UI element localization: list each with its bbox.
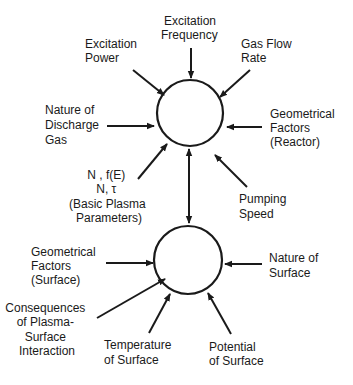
label-basic-plasma-parameters: N , f(E) N, τ (Basic Plasma Parameters) (69, 168, 149, 225)
label-pumping-speed: Pumping Speed (239, 192, 290, 221)
arrow-basic-plasma-parameters (138, 144, 167, 179)
label-temperature-of-surface: Temperature of Surface (104, 338, 175, 367)
label-geometrical-factors-surface: Geometrical Factors (Surface) (31, 245, 99, 287)
label-nature-of-surface: Nature of Surface (269, 251, 322, 280)
arrow-potential-of-surface (208, 293, 231, 334)
label-consequences: Consequences of Plasma- Surface Interact… (5, 301, 88, 358)
label-excitation-frequency: Excitation Frequency (161, 14, 219, 42)
surface-node-circle (154, 226, 222, 294)
label-excitation-power: Excitation Power (85, 37, 140, 65)
label-gas-flow-rate: Gas Flow Rate (241, 37, 295, 65)
arrow-gas-flow-rate (220, 70, 250, 97)
arrow-temperature-of-surface (149, 294, 170, 333)
label-nature-of-discharge-gas: Nature of Discharge Gas (45, 103, 102, 147)
label-potential-of-surface: Potential of Surface (209, 340, 264, 368)
plasma-surface-diagram: Excitation Power Excitation Frequency Ga… (0, 0, 353, 385)
arrow-pumping-speed (215, 155, 247, 187)
plasma-node-circle (157, 80, 223, 146)
arrow-consequences (97, 279, 165, 318)
arrow-excitation-power (133, 70, 164, 95)
label-geometrical-factors-reactor: Geometrical Factors (Reactor) (270, 107, 338, 149)
